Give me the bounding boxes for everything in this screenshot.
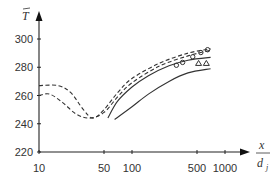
svg-text:x: x [258, 138, 265, 152]
triangle-marker-icon [196, 60, 202, 65]
series-solid-lower [115, 69, 211, 120]
y-tick-label: 280 [15, 61, 33, 73]
x-ticks: 10501005001000 [33, 150, 237, 174]
x-tick-label: 10 [33, 162, 45, 174]
y-tick-label: 260 [15, 90, 33, 102]
x-tick-label: 1000 [213, 162, 237, 174]
chart: 220240260280300 10501005001000 T x d j [0, 0, 279, 182]
y-tick-label: 220 [15, 146, 33, 158]
x-tick-label: 100 [123, 162, 141, 174]
y-tick-label: 300 [15, 33, 33, 45]
axes [36, 11, 251, 156]
y-ticks: 220240260280300 [15, 33, 41, 158]
x-tick-label: 50 [98, 162, 110, 174]
svg-text:j: j [265, 163, 269, 172]
circle-marker-icon [191, 55, 195, 59]
x-axis-label: x d j [256, 138, 270, 172]
y-axis-label: T [22, 9, 30, 23]
series [39, 48, 211, 120]
x-axis-arrow-icon [240, 149, 250, 156]
svg-text:d: d [257, 156, 264, 170]
y-axis-arrow-icon [36, 11, 43, 21]
y-tick-label: 240 [15, 118, 33, 130]
series-dashed-upper [39, 49, 211, 118]
x-tick-label: 500 [188, 162, 206, 174]
triangle-marker-icon [203, 60, 209, 65]
